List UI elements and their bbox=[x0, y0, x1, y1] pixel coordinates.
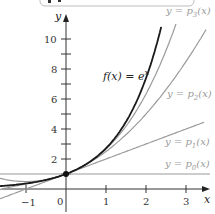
curve-exp bbox=[0, 27, 161, 186]
curve-p3 bbox=[0, 24, 176, 190]
y-axis-label: y bbox=[54, 10, 62, 23]
y-tick-label: 6 bbox=[51, 94, 57, 105]
caption-text-fragment bbox=[58, 0, 61, 2]
p3-label: y = p3(x) bbox=[165, 5, 211, 19]
taylor-polynomial-chart: x y −1 0 1 2 3 2 4 6 8 10 f(x) = ex y = … bbox=[0, 0, 215, 214]
f-label: f(x) = ex bbox=[102, 68, 150, 83]
x-tick-label: 1 bbox=[103, 196, 109, 207]
y-tick-label: 8 bbox=[51, 64, 57, 75]
x-tick-label: 0 bbox=[57, 196, 63, 207]
point-0-1 bbox=[63, 171, 69, 177]
y-axis-arrow-icon bbox=[63, 14, 69, 22]
p0-label: y = p0(x) bbox=[164, 158, 210, 172]
caption-text-fragment bbox=[48, 0, 51, 3]
p2-label: y = p2(x) bbox=[166, 88, 212, 102]
x-tick-label: 2 bbox=[143, 196, 149, 207]
x-tick-label: 3 bbox=[183, 196, 189, 207]
y-tick-label: 2 bbox=[51, 154, 57, 165]
y-tick-label: 10 bbox=[44, 34, 57, 45]
x-axis-label: x bbox=[204, 193, 211, 206]
x-axis-arrow-icon bbox=[202, 186, 210, 192]
p1-label: y = p1(x) bbox=[164, 136, 210, 150]
x-tick-label: −1 bbox=[21, 197, 36, 208]
y-tick-label: 4 bbox=[51, 124, 57, 135]
